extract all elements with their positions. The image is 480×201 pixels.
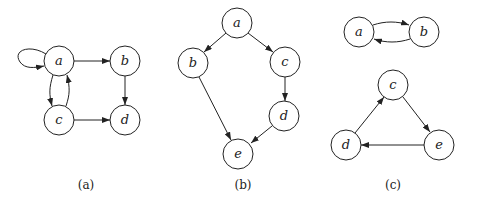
edge-a-c — [248, 33, 273, 52]
node-d: d — [269, 101, 299, 131]
node-label: d — [280, 108, 288, 123]
node-label: e — [234, 146, 242, 161]
node-label: e — [435, 137, 443, 152]
panel-b: a b c d e (b) — [178, 8, 300, 192]
panel-caption: (c) — [385, 178, 401, 192]
node-label: b — [189, 55, 197, 70]
node-label: c — [389, 77, 397, 92]
node-label: b — [420, 24, 428, 39]
node-e: e — [223, 139, 253, 169]
node-d: d — [110, 105, 140, 135]
edge-a-b — [204, 33, 226, 52]
graph-figure: a b c d (a) a b c — [0, 0, 480, 201]
edge-a-b — [373, 22, 409, 25]
edge-a-c — [50, 75, 53, 106]
edge-a-a-self-loop — [18, 49, 46, 68]
node-label: d — [121, 112, 129, 127]
edge-c-a — [66, 75, 69, 106]
node-c: c — [270, 47, 300, 77]
node-label: b — [121, 53, 129, 68]
edge-b-a — [374, 39, 410, 42]
edge-d-c — [355, 97, 384, 133]
panel-c: a b c d e (c) — [331, 17, 454, 192]
node-c: c — [44, 105, 74, 135]
edge-b-e — [199, 77, 231, 140]
node-a: a — [44, 46, 74, 76]
node-c: c — [378, 70, 408, 100]
node-label: a — [233, 15, 241, 30]
node-b: b — [178, 48, 208, 78]
node-a: a — [222, 8, 252, 38]
panel-caption: (b) — [234, 178, 251, 192]
node-d: d — [331, 130, 361, 160]
node-e: e — [424, 130, 454, 160]
edge-c-e — [403, 97, 430, 132]
node-b: b — [110, 46, 140, 76]
node-b: b — [409, 17, 439, 47]
edge-d-e — [251, 126, 272, 143]
node-label: a — [55, 53, 63, 68]
node-label: c — [281, 54, 289, 69]
node-label: d — [342, 137, 350, 152]
panel-a: a b c d (a) — [18, 46, 140, 192]
panel-caption: (a) — [78, 178, 95, 192]
node-label: c — [55, 112, 63, 127]
node-label: a — [355, 24, 363, 39]
node-a: a — [344, 17, 374, 47]
